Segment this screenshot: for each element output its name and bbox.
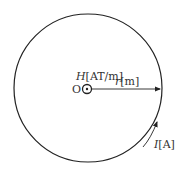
diagram-canvas: O H[AT/m] r[m] I[A] bbox=[0, 0, 181, 177]
center-label: O bbox=[72, 83, 81, 96]
current-loop-circle bbox=[14, 14, 162, 162]
loop-diagram: O H[AT/m] r[m] I[A] bbox=[0, 0, 181, 177]
current-label: I[A] bbox=[153, 138, 175, 151]
field-out-of-page-icon bbox=[83, 85, 92, 94]
radius-label: r[m] bbox=[115, 75, 139, 88]
